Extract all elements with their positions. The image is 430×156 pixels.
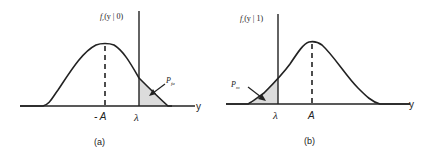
threshold-label: λ — [133, 111, 139, 123]
false-alarm-label: Pfa — [165, 76, 175, 86]
mean-label: A — [307, 110, 315, 121]
panel-b: fr(y | 1) Pm y λ A (b) — [226, 14, 414, 146]
pdf-label: fr(y | 1) — [240, 14, 263, 24]
pdf-label: fr(y | 0) — [100, 12, 123, 22]
pdf-curve — [226, 42, 410, 104]
pointer-arrow-shaft — [153, 84, 165, 93]
pointer-arrow-shaft — [248, 87, 261, 97]
threshold-label: λ — [272, 109, 278, 121]
diagram-canvas: fr(y | 0) Pfa y - A λ (a) fr(y | 1) Pm y… — [0, 0, 430, 156]
panel-caption: (b) — [304, 136, 315, 146]
panel-caption: (a) — [94, 137, 105, 147]
miss-label: Pm — [230, 80, 240, 90]
axis-label: y — [196, 101, 201, 112]
mean-label: - A — [94, 111, 107, 122]
axis-label: y — [409, 99, 414, 110]
panel-a: fr(y | 0) Pfa y - A λ (a) — [20, 11, 201, 147]
